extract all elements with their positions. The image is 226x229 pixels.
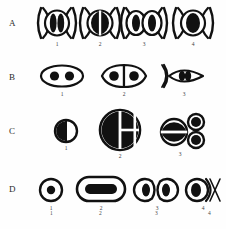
panel-a1-number: 1: [34, 41, 80, 47]
figure-plate: A 1: [0, 0, 226, 229]
panel-c2-number: 2: [92, 153, 148, 159]
bottom-number-4: 4: [208, 210, 211, 216]
panel-a3-art: [119, 6, 169, 40]
panel-b3-number: 3: [158, 91, 210, 97]
panel-d3-art: [131, 176, 183, 204]
panel-a2-number: 2: [76, 41, 124, 47]
panel-c3: 3: [152, 112, 208, 157]
figure-row-c: C 1: [0, 108, 226, 160]
bottom-number-1: 1: [50, 210, 53, 216]
figure-row-a: A 1: [0, 4, 226, 52]
row-label-b: B: [9, 72, 15, 82]
panel-a2: 2: [76, 6, 124, 47]
panel-c2-art: [92, 108, 148, 152]
panel-c1-number: 1: [44, 145, 88, 151]
row-label-d: D: [9, 184, 16, 194]
panel-b2: 2: [98, 62, 150, 97]
panel-c1: 1: [44, 118, 88, 151]
row-label-a: A: [9, 18, 16, 28]
bottom-number-2: 2: [99, 210, 102, 216]
panel-c1-art: [44, 118, 88, 144]
panel-a4: 4: [168, 6, 218, 47]
panel-b2-number: 2: [98, 91, 150, 97]
panel-d2-art: [74, 174, 128, 204]
panel-a2-art: [76, 6, 124, 40]
panel-c3-number: 3: [152, 151, 208, 157]
panel-d2: 2: [74, 174, 128, 211]
panel-b3: 3: [158, 62, 210, 97]
panel-a4-number: 4: [168, 41, 218, 47]
panel-b3-art: [158, 62, 210, 90]
panel-a4-art: [168, 6, 218, 40]
panel-b1-number: 1: [38, 91, 86, 97]
panel-a1-art: [34, 6, 80, 40]
bottom-number-3: 3: [155, 210, 158, 216]
bottom-number-row: 1 2 3 4: [0, 210, 226, 219]
panel-c2: 2: [92, 108, 148, 159]
panel-a1: 1: [34, 6, 80, 47]
panel-b2-art: [98, 62, 150, 90]
panel-a3-number: 3: [119, 41, 169, 47]
panel-d3: 3: [131, 176, 183, 211]
panel-a3: 3: [119, 6, 169, 47]
figure-row-b: B 1 2: [0, 58, 226, 106]
panel-b1-art: [38, 62, 86, 90]
panel-d4-art: [182, 176, 224, 204]
panel-c3-art: [152, 112, 208, 150]
panel-b1: 1: [38, 62, 86, 97]
figure-row-d: D 1 2: [0, 168, 226, 214]
row-label-c: C: [9, 126, 15, 136]
panel-d1: 1: [32, 176, 70, 211]
panel-d4: 4: [182, 176, 224, 211]
panel-d1-art: [32, 176, 70, 204]
